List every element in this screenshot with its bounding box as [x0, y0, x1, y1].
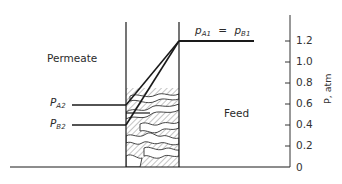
tick-label: 0.6	[296, 97, 313, 109]
membrane-pressure-diagram	[0, 0, 342, 184]
feed-pressure-label: pA1 = pB1	[195, 24, 250, 38]
pb2-label: PB2	[50, 117, 66, 131]
tick-label: 0.8	[296, 76, 313, 88]
tick-label: 0	[296, 161, 303, 173]
porous-support-layer	[126, 88, 179, 167]
axis-ticks	[285, 41, 290, 146]
tick-label: 1.0	[296, 55, 313, 67]
tick-label: 0.2	[296, 139, 313, 151]
axis-title: P, atm	[322, 73, 333, 104]
tick-label: 0.4	[296, 118, 313, 130]
pa2-label: PA2	[50, 96, 66, 110]
tick-label: 1.2	[296, 34, 313, 46]
permeate-label: Permeate	[47, 52, 97, 64]
feed-label: Feed	[224, 107, 249, 119]
